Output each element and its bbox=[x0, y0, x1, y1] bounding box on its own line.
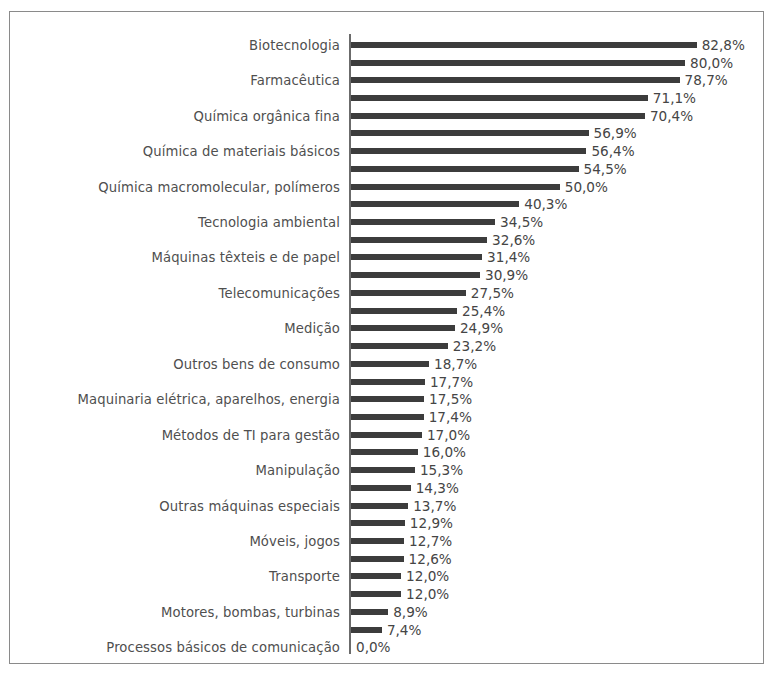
bar-row[interactable]: 12,6% bbox=[10, 550, 763, 568]
bar[interactable] bbox=[351, 609, 388, 615]
category-label: Biotecnologia bbox=[249, 37, 340, 52]
bar-value-label: 17,0% bbox=[422, 427, 470, 443]
bar[interactable] bbox=[351, 290, 466, 296]
bar[interactable] bbox=[351, 503, 408, 509]
bar-value-label: 78,7% bbox=[680, 72, 728, 88]
bar[interactable] bbox=[351, 254, 482, 260]
bar-row[interactable]: Processos básicos de comunicação0,0% bbox=[10, 638, 763, 656]
category-label: Maquinaria elétrica, aparelhos, energia bbox=[78, 392, 340, 407]
bar-fill bbox=[351, 396, 424, 402]
bar[interactable] bbox=[351, 414, 424, 420]
bar[interactable] bbox=[351, 538, 404, 544]
bar-row[interactable]: 54,5% bbox=[10, 160, 763, 178]
bar-row[interactable]: 7,4% bbox=[10, 621, 763, 639]
bar-row[interactable]: 30,9% bbox=[10, 266, 763, 284]
bar[interactable] bbox=[351, 343, 448, 349]
bar-fill bbox=[351, 361, 429, 367]
bar-row[interactable]: 16,0% bbox=[10, 444, 763, 462]
bar-fill bbox=[351, 60, 685, 66]
bar-fill bbox=[351, 627, 382, 633]
bar-row[interactable]: Outras máquinas especiais13,7% bbox=[10, 497, 763, 515]
bar-fill bbox=[351, 343, 448, 349]
bar[interactable] bbox=[351, 467, 415, 473]
bar[interactable] bbox=[351, 396, 424, 402]
bar-value-label: 82,8% bbox=[697, 37, 745, 53]
bar-value-label: 71,1% bbox=[648, 90, 696, 106]
bar[interactable] bbox=[351, 591, 401, 597]
bar-row[interactable]: 56,9% bbox=[10, 125, 763, 143]
category-label: Manipulação bbox=[256, 463, 340, 478]
bar-row[interactable]: Manipulação15,3% bbox=[10, 461, 763, 479]
bar[interactable] bbox=[351, 130, 589, 136]
bar-row[interactable]: Medição24,9% bbox=[10, 320, 763, 338]
bar-fill bbox=[351, 556, 404, 562]
bar[interactable] bbox=[351, 449, 418, 455]
bar-row[interactable]: Métodos de TI para gestão17,0% bbox=[10, 426, 763, 444]
bar-row[interactable]: 32,6% bbox=[10, 231, 763, 249]
bar-row[interactable]: Motores, bombas, turbinas8,9% bbox=[10, 603, 763, 621]
bar-value-label: 18,7% bbox=[429, 356, 477, 372]
category-label: Telecomunicações bbox=[219, 285, 340, 300]
bar[interactable] bbox=[351, 201, 519, 207]
bar-fill bbox=[351, 77, 680, 83]
bar-value-label: 17,5% bbox=[424, 391, 472, 407]
bar[interactable] bbox=[351, 95, 648, 101]
bar-fill bbox=[351, 485, 411, 491]
bar-row[interactable]: Transporte12,0% bbox=[10, 568, 763, 586]
bar-row[interactable]: Química de materiais básicos56,4% bbox=[10, 142, 763, 160]
bar[interactable] bbox=[351, 627, 382, 633]
bar[interactable] bbox=[351, 272, 480, 278]
bar-row[interactable]: Telecomunicações27,5% bbox=[10, 284, 763, 302]
bar-row[interactable]: Biotecnologia82,8% bbox=[10, 36, 763, 54]
bar-row[interactable]: 23,2% bbox=[10, 337, 763, 355]
bar-value-label: 12,6% bbox=[404, 551, 452, 567]
bar-row[interactable]: 71,1% bbox=[10, 89, 763, 107]
bar[interactable] bbox=[351, 42, 697, 48]
bar[interactable] bbox=[351, 184, 560, 190]
bar-value-label: 13,7% bbox=[408, 498, 456, 514]
bar-row[interactable]: Química orgânica fina70,4% bbox=[10, 107, 763, 125]
bar-row[interactable]: Maquinaria elétrica, aparelhos, energia1… bbox=[10, 390, 763, 408]
bar-value-label: 7,4% bbox=[382, 622, 422, 638]
bar[interactable] bbox=[351, 520, 405, 526]
bar[interactable] bbox=[351, 77, 680, 83]
bar-row[interactable]: Tecnologia ambiental34,5% bbox=[10, 213, 763, 231]
category-label: Química orgânica fina bbox=[193, 108, 340, 123]
bar-row[interactable]: 80,0% bbox=[10, 54, 763, 72]
bar-value-label: 23,2% bbox=[448, 338, 496, 354]
bar-row[interactable]: 14,3% bbox=[10, 479, 763, 497]
bar-row[interactable]: 25,4% bbox=[10, 302, 763, 320]
bar[interactable] bbox=[351, 432, 422, 438]
bar-row[interactable]: Outros bens de consumo18,7% bbox=[10, 355, 763, 373]
bar-row[interactable]: Farmacêutica78,7% bbox=[10, 71, 763, 89]
bar[interactable] bbox=[351, 148, 586, 154]
bar-row[interactable]: Móveis, jogos12,7% bbox=[10, 532, 763, 550]
bar-row[interactable]: 40,3% bbox=[10, 195, 763, 213]
bar[interactable] bbox=[351, 113, 645, 119]
bar-fill bbox=[351, 272, 480, 278]
bar-fill bbox=[351, 113, 645, 119]
bar-fill bbox=[351, 166, 579, 172]
bar[interactable] bbox=[351, 325, 455, 331]
bar-value-label: 14,3% bbox=[411, 480, 459, 496]
bar-row[interactable]: 17,7% bbox=[10, 373, 763, 391]
bar-row[interactable]: Química macromolecular, polímeros50,0% bbox=[10, 178, 763, 196]
bar-row[interactable]: 12,9% bbox=[10, 514, 763, 532]
bar-value-label: 16,0% bbox=[418, 444, 466, 460]
bar[interactable] bbox=[351, 556, 404, 562]
bar-fill bbox=[351, 609, 388, 615]
bar-row[interactable]: Máquinas têxteis e de papel31,4% bbox=[10, 249, 763, 267]
bar[interactable] bbox=[351, 573, 401, 579]
bar[interactable] bbox=[351, 219, 495, 225]
bar[interactable] bbox=[351, 60, 685, 66]
bar[interactable] bbox=[351, 237, 487, 243]
bar-row[interactable]: 12,0% bbox=[10, 585, 763, 603]
bar[interactable] bbox=[351, 308, 457, 314]
bar[interactable] bbox=[351, 379, 425, 385]
bar[interactable] bbox=[351, 485, 411, 491]
category-label: Outras máquinas especiais bbox=[159, 498, 340, 513]
bar[interactable] bbox=[351, 166, 579, 172]
bar[interactable] bbox=[351, 361, 429, 367]
bar-value-label: 12,7% bbox=[404, 533, 452, 549]
bar-row[interactable]: 17,4% bbox=[10, 408, 763, 426]
